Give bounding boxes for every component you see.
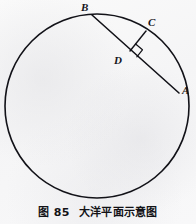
figure-caption: 图 85大洋平面示意图: [0, 203, 196, 219]
chord-BA: [92, 15, 179, 93]
ocean-circle: [5, 14, 189, 198]
point-label-a: A: [182, 85, 189, 96]
point-label-d: D: [114, 55, 122, 66]
figure-caption-title: 大洋平面示意图: [79, 206, 158, 219]
point-label-c: C: [148, 17, 155, 28]
figure-caption-number: 图 85: [38, 206, 69, 219]
figure-container: B C D A 图 85大洋平面示意图: [0, 0, 196, 224]
geometry-diagram: [0, 0, 196, 224]
point-label-b: B: [81, 2, 88, 13]
segment-CD: [130, 31, 146, 51]
